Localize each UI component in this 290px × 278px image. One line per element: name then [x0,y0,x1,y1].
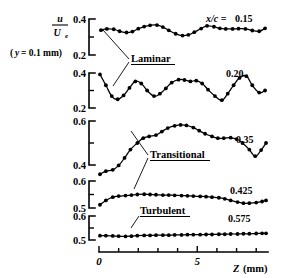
data-point [161,193,165,197]
regime-leader-line [103,30,129,59]
data-point [129,148,133,152]
data-point [167,233,171,237]
data-point [204,233,208,237]
data-point [179,123,183,127]
data-point [257,29,261,33]
data-point [154,133,158,137]
data-point [224,27,228,31]
regime-label-text: Laminar [131,53,171,64]
data-point [191,233,195,237]
data-point [198,233,202,237]
x-axis-title-unit: (mm) [243,263,268,275]
y-tick-label-max: 0.4 [73,68,87,79]
data-point [98,203,102,207]
series-label-value: 0.425 [230,185,253,196]
data-point [104,83,108,87]
data-point [197,129,201,133]
data-point [147,135,151,139]
data-point [206,88,210,92]
data-point [98,234,102,238]
data-point [152,94,156,98]
data-point [186,194,190,198]
data-point [250,83,254,87]
data-point [220,98,224,102]
data-point [105,27,109,31]
data-point [161,25,165,29]
y-axis-denominator-subscript: e [65,32,68,40]
data-point [198,194,202,198]
data-point [167,193,171,197]
data-point [236,232,240,236]
boundary-layer-transition-chart: 0.40.2x/c = 0.150.40.20.200.60.40.350.60… [0,0,290,278]
y-tick-label-min: 0.2 [73,103,86,114]
data-point [141,136,145,140]
data-point [122,94,126,98]
data-point [188,80,192,84]
data-point [125,31,129,35]
regime-label-text: Turbulent [140,205,186,216]
data-point [98,172,102,176]
data-point [124,235,128,239]
data-point [236,200,240,204]
panel-0-35: 0.60.40.35 [73,116,268,176]
data-point [166,126,170,130]
regime-leader-line [131,131,148,155]
data-point [160,130,164,134]
data-point [173,233,177,237]
data-point [192,30,196,34]
y-condition-label: ( y = 0.1 mm) [10,48,62,59]
data-point [264,231,268,235]
data-point [259,148,263,152]
data-point [210,195,214,199]
panel-0-20: 0.40.20.20 [73,68,267,114]
data-point [180,194,184,198]
data-point [131,30,135,34]
y-condition-variable: y [14,48,20,58]
y-condition-paren-open: ( [10,48,13,59]
data-point [173,124,177,128]
data-point [260,200,264,204]
data-point [210,233,214,237]
data-point [186,233,190,237]
data-point [142,234,146,238]
y-tick-label-min: 0.2 [73,50,86,61]
data-point [229,232,233,236]
data-point [222,136,226,140]
data-point [154,233,158,237]
data-point [229,136,233,140]
data-point [242,232,246,236]
data-point [263,89,267,93]
y-axis-label: u U e [52,13,68,40]
data-point [148,234,152,238]
data-point [257,91,261,95]
data-point [205,24,209,28]
data-point [130,193,134,197]
data-point [111,168,115,172]
regime-label-turbulent: Turbulent [131,205,190,228]
data-point [263,26,267,30]
data-point [139,82,143,86]
data-point [164,87,168,91]
data-point [231,27,235,31]
data-point [187,33,191,37]
data-point [158,92,162,96]
x-axis-title: Z (mm) [232,263,268,275]
data-point [200,82,204,86]
data-point [111,234,115,238]
data-point [247,201,251,205]
data-point [264,141,268,145]
data-point [253,154,257,158]
data-point [148,23,152,27]
data-point [250,29,254,33]
data-point [117,164,121,168]
data-point [194,79,198,83]
data-point [104,199,108,203]
data-point [99,28,103,32]
y-tick-label-max: 0.6 [73,211,86,222]
data-point [213,94,217,98]
data-point [104,234,108,238]
data-point [118,29,122,33]
y-tick-label-max: 0.6 [73,176,86,187]
data-point [203,132,207,136]
data-point [155,23,159,27]
